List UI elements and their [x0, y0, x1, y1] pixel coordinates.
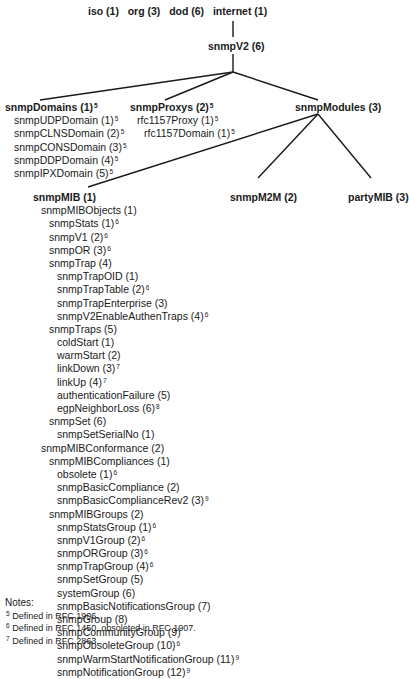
node-snmp-modules: snmpModules (3)	[295, 101, 381, 114]
node-iso: iso (1)	[88, 5, 119, 17]
note-7: 7 Defined in RFC 2863.	[5, 635, 196, 648]
node-org: org (3)	[128, 5, 161, 17]
mib-tree-node: snmpBasicComplianceRev2 (3)9	[33, 494, 239, 507]
node-dod: dod (6)	[169, 5, 204, 17]
mib-tree-node: snmpV1Group (2)6	[33, 534, 239, 547]
mib-tree-node: snmpMIBGroups (2)	[33, 508, 239, 521]
mib-tree-node: snmpStatsGroup (1)6	[33, 521, 239, 534]
mib-tree-node: snmpBasicCompliance (2)	[33, 481, 239, 494]
mib-tree-node: snmpTrapOID (1)	[33, 270, 239, 283]
mib-tree-node: snmpSetSerialNo (1)	[33, 428, 239, 441]
node-snmp-proxys: snmpProxys (2)5	[130, 101, 235, 114]
node-snmp-m2m: snmpM2M (2)	[230, 191, 297, 204]
node-snmp-cons-domain: snmpCONSDomain (3)5	[5, 141, 127, 154]
node-rfc1157-domain: rfc1157Domain (1)5	[130, 127, 235, 140]
mib-tree-node: snmpV2EnableAuthenTraps (4)6	[33, 310, 239, 323]
node-snmp-clns-domain: snmpCLNSDomain (2)5	[5, 127, 127, 140]
mib-tree-node: snmpTrapEnterprise (3)	[33, 297, 239, 310]
node-snmp-udp-domain: snmpUDPDomain (1)5	[5, 114, 127, 127]
mib-tree-node: snmpMIBCompliances (1)	[33, 455, 239, 468]
mib-tree-node: snmpMIBObjects (1)	[33, 204, 239, 217]
mib-tree-node: egpNeighborLoss (6)8	[33, 402, 239, 415]
node-internet: internet (1)	[213, 5, 267, 17]
oid-path-top: iso (1) org (3) dod (6) internet (1)	[88, 5, 267, 18]
snmp-domains-branch: snmpDomains (1)5 snmpUDPDomain (1)5 snmp…	[5, 101, 127, 180]
mib-tree-node: snmpSet (6)	[33, 415, 239, 428]
node-party-mib: partyMIB (3)	[348, 191, 409, 204]
mib-tree-node: authenticationFailure (5)	[33, 389, 239, 402]
mib-tree-node: snmpOR (3)6	[33, 244, 239, 257]
node-snmp-domains: snmpDomains (1)5	[5, 101, 127, 114]
mib-tree-node: linkUp (4)7	[33, 376, 239, 389]
mib-tree-node: snmpWarmStartNotificationGroup (11)9	[33, 653, 239, 666]
mib-tree-node: linkDown (3)7	[33, 362, 239, 375]
mib-tree-node: snmpSetGroup (5)	[33, 573, 239, 586]
mib-tree-node: snmpNotificationGroup (12)9	[33, 666, 239, 679]
node-rfc1157-proxy: rfc1157Proxy (1)5	[130, 114, 235, 127]
mib-tree-node: snmpMIBConformance (2)	[33, 442, 239, 455]
notes-title: Notes:	[5, 597, 196, 610]
mib-tree-node: obsolete (1)6	[33, 468, 239, 481]
mib-tree-node: snmpTrap (4)	[33, 257, 239, 270]
node-snmp-ddp-domain: snmpDDPDomain (4)5	[5, 154, 127, 167]
node-snmpv2: snmpV2 (6)	[208, 40, 265, 53]
mib-tree-node: snmpV1 (2)6	[33, 231, 239, 244]
node-snmp-ipx-domain: snmpIPXDomain (5)5	[5, 167, 127, 180]
node-snmp-mib: snmpMIB (1)	[33, 191, 239, 204]
mib-tree-node: snmpTrapTable (2)6	[33, 283, 239, 296]
mib-tree-node: snmpTraps (5)	[33, 323, 239, 336]
mib-tree-node: coldStart (1)	[33, 336, 239, 349]
mib-tree-node: snmpTrapGroup (4)6	[33, 560, 239, 573]
snmp-proxys-branch: snmpProxys (2)5 rfc1157Proxy (1)5 rfc115…	[130, 101, 235, 141]
notes-section: Notes: 5 Defined in RFC 1906. 6 Defined …	[5, 597, 196, 647]
mib-tree-node: snmpORGroup (3)6	[33, 547, 239, 560]
note-5: 5 Defined in RFC 1906.	[5, 610, 196, 623]
mib-tree-node: warmStart (2)	[33, 349, 239, 362]
mib-tree-node: snmpStats (1)6	[33, 217, 239, 230]
note-6: 6 Defined in RFC 1450, obsoleted in RFC …	[5, 622, 196, 635]
